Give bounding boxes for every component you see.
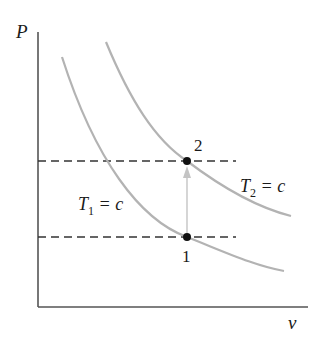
y-axis-label: P [15, 21, 28, 42]
isotherm-t2-label: T2 = c [240, 176, 285, 200]
state-point-1 [183, 233, 191, 241]
pv-diagram: P v 2 1 T1 = c T2 = c [0, 0, 330, 355]
t2-rest: = c [256, 176, 285, 196]
t1-equals-c: = c [94, 194, 123, 214]
state-label-2: 2 [194, 136, 203, 155]
arrow-head-icon [183, 166, 191, 178]
isotherm-t1-label: T1 = c [78, 194, 123, 218]
t2-equals-c: = c [256, 176, 285, 196]
t1-rest: = c [94, 194, 123, 214]
state-point-2 [183, 157, 191, 165]
isotherm-t1-curve [62, 57, 284, 271]
state-label-1: 1 [182, 247, 191, 266]
x-axis-label: v [288, 312, 297, 333]
